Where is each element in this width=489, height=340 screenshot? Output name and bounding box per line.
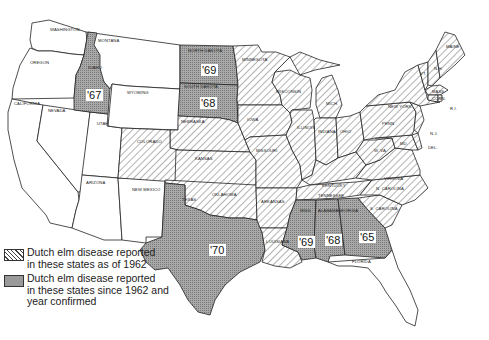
label-alabama: ALABAMA xyxy=(318,208,339,213)
legend-line: year confirmed xyxy=(27,296,169,308)
label-missouri: MISSOURI xyxy=(256,148,278,153)
label-s-carolina: S. CAROLINA xyxy=(370,206,398,211)
label-washington: WASHINGTON xyxy=(50,27,80,32)
label-montana: MONTANA xyxy=(98,38,119,43)
label-kentucky: KENTUCKY xyxy=(322,183,346,188)
label-mass: MASS. xyxy=(432,89,446,94)
label-louisiana: LOUISIANA xyxy=(266,239,289,244)
label-wisconsin: WISCONSIN xyxy=(276,89,301,94)
label-arkansas: ARKANSAS xyxy=(261,199,285,204)
label-oregon: OREGON xyxy=(30,60,49,65)
svg-text:'69: '69 xyxy=(202,64,216,76)
label-md: MD. xyxy=(400,141,408,146)
label-n-carolina: N. CAROLINA xyxy=(376,186,404,191)
label-utah: UTAH xyxy=(97,121,109,126)
label-nj: N.J. xyxy=(430,131,438,136)
year-badge-south-dakota: '68 xyxy=(200,97,217,109)
year-badge-georgia: '65 xyxy=(359,231,376,243)
year-badge-alabama: '68 xyxy=(325,234,342,246)
legend-item-hatched: Dutch elm disease reported in these stat… xyxy=(4,247,204,270)
svg-text:'68: '68 xyxy=(326,234,340,246)
legend-line: Dutch elm disease reported xyxy=(27,273,169,285)
label-penn: PENN. xyxy=(382,121,395,126)
label-arizona: ARIZONA xyxy=(86,180,105,185)
state-colorado xyxy=(118,128,178,182)
label-new-mexico: NEW MEXICO xyxy=(132,187,161,192)
label-nevada: NEVADA xyxy=(48,108,66,113)
svg-text:'69: '69 xyxy=(299,236,313,248)
label-tennessee: TENNESSEE xyxy=(318,193,344,198)
legend-text-hatched: Dutch elm disease reported in these stat… xyxy=(27,247,155,270)
year-badge-north-dakota: '69 xyxy=(201,64,218,76)
label-kansas: KANSAS xyxy=(195,156,213,161)
state-indiana xyxy=(314,118,338,165)
label-vt: VT. xyxy=(420,71,426,76)
stippled-swatch-icon xyxy=(4,275,24,287)
legend-item-stippled: Dutch elm disease reported in these stat… xyxy=(4,273,204,308)
legend-text-stippled: Dutch elm disease reported in these stat… xyxy=(27,273,169,308)
state-florida xyxy=(328,250,418,326)
year-badge-miss: '69 xyxy=(298,236,315,248)
label-indiana: INDIANA xyxy=(318,129,336,134)
label-georgia: GEORGIA xyxy=(338,208,358,213)
label-texas: TEXAS xyxy=(182,197,196,202)
label-illinois: ILLINOIS xyxy=(297,125,315,130)
label-ohio: OHIO xyxy=(340,129,352,134)
svg-text:'67: '67 xyxy=(87,89,101,101)
label-conn: CONN. xyxy=(432,96,446,101)
label-nebraska: NEBRASKA xyxy=(181,119,205,124)
label-ri: R.I. xyxy=(450,106,457,111)
state-maine xyxy=(436,32,465,78)
state-washington xyxy=(30,20,88,55)
label-colorado: COLORADO xyxy=(137,139,162,144)
year-badge-idaho: '67 xyxy=(86,89,103,101)
label-oklahoma: OKLAHOMA xyxy=(212,192,237,197)
label-miss: MISS. xyxy=(300,208,312,213)
svg-text:'65: '65 xyxy=(360,231,374,243)
svg-text:'68: '68 xyxy=(201,97,215,109)
legend-line: Dutch elm disease reported xyxy=(27,247,155,259)
state-oregon xyxy=(12,48,84,99)
label-iowa: IOWA xyxy=(247,117,259,122)
label-del: DEL. xyxy=(428,145,438,150)
label-new-york: NEW YORK xyxy=(388,104,412,109)
year-badge-texas: '70 xyxy=(209,244,226,256)
label-virginia: VIRGINIA xyxy=(384,176,403,181)
label-wyoming: WYOMING xyxy=(127,90,149,95)
label-california: CALIFORNIA xyxy=(14,101,40,106)
label-north-dakota: NORTH DAKOTA xyxy=(188,48,222,53)
state-kansas xyxy=(175,150,256,186)
label-idaho: IDAHO xyxy=(88,65,102,70)
label-south-dakota: SOUTH DAKOTA xyxy=(184,84,218,89)
svg-text:'70: '70 xyxy=(210,244,224,256)
legend-line: in these states as of 1962 xyxy=(27,259,155,271)
label-florida: FLORIDA xyxy=(352,259,371,264)
map-legend: Dutch elm disease reported in these stat… xyxy=(4,247,204,311)
label-maine: MAINE xyxy=(446,44,460,49)
label-w-virginia: W. VA. xyxy=(374,148,387,153)
label-minnesota: MINNESOTA xyxy=(242,57,268,62)
label-nh: N.H. xyxy=(434,66,443,71)
hatched-swatch-icon xyxy=(4,249,24,261)
label-michigan: MICH. xyxy=(326,101,338,106)
